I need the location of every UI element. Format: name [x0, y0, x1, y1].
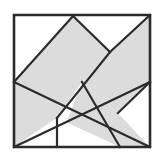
tangram-svg-canvas	[0, 0, 162, 159]
tangram-figure	[0, 0, 162, 159]
